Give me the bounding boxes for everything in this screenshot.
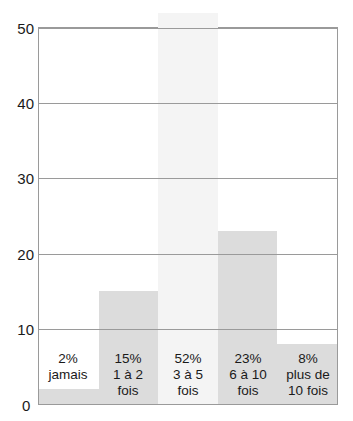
value-label: 52% [174,351,201,367]
value-label: 23% [234,351,261,367]
y-tick-label-20: 20 [17,245,34,262]
y-tick-label-50: 50 [17,20,34,37]
category-label-3-a-5-fois: 52% 3 à 5 fois [158,347,218,404]
gridline-50: 50 [39,28,337,29]
category-line-2: fois [117,383,138,399]
category-line-2: fois [177,383,198,399]
y-axis-zero-label: 0 [22,397,30,414]
value-label: 8% [298,351,318,367]
value-label: 15% [114,351,141,367]
category-label-1-a-2-fois: 15% 1 à 2 fois [98,347,158,404]
category-line-1: 6 à 10 [229,367,267,383]
bar-3-a-5-fois [158,13,218,404]
category-line-1: 1 à 2 [113,367,143,383]
category-label-6-a-10-fois: 23% 6 à 10 fois [218,347,278,404]
category-line-2: 10 fois [288,383,328,399]
category-label-band: 2% jamais 15% 1 à 2 fois 52% 3 à 5 fois … [38,347,338,404]
category-line-1: jamais [48,367,87,383]
gridline-20: 20 [39,254,337,255]
gridline-30: 30 [39,178,337,179]
y-tick-label-30: 30 [17,170,34,187]
y-tick-label-10: 10 [17,320,34,337]
value-label: 2% [58,351,78,367]
category-label-jamais: 2% jamais [38,347,98,404]
gridline-40: 40 [39,103,337,104]
category-line-2: fois [237,383,258,399]
y-tick-label-40: 40 [17,95,34,112]
gridline-10: 10 [39,329,337,330]
category-label-plus-de-10-fois: 8% plus de 10 fois [278,347,338,404]
category-line-1: 3 à 5 [173,367,203,383]
category-line-1: plus de [286,367,330,383]
bar-chart-figure: 1020304050 2% jamais 15% 1 à 2 fois 52% … [0,0,353,421]
